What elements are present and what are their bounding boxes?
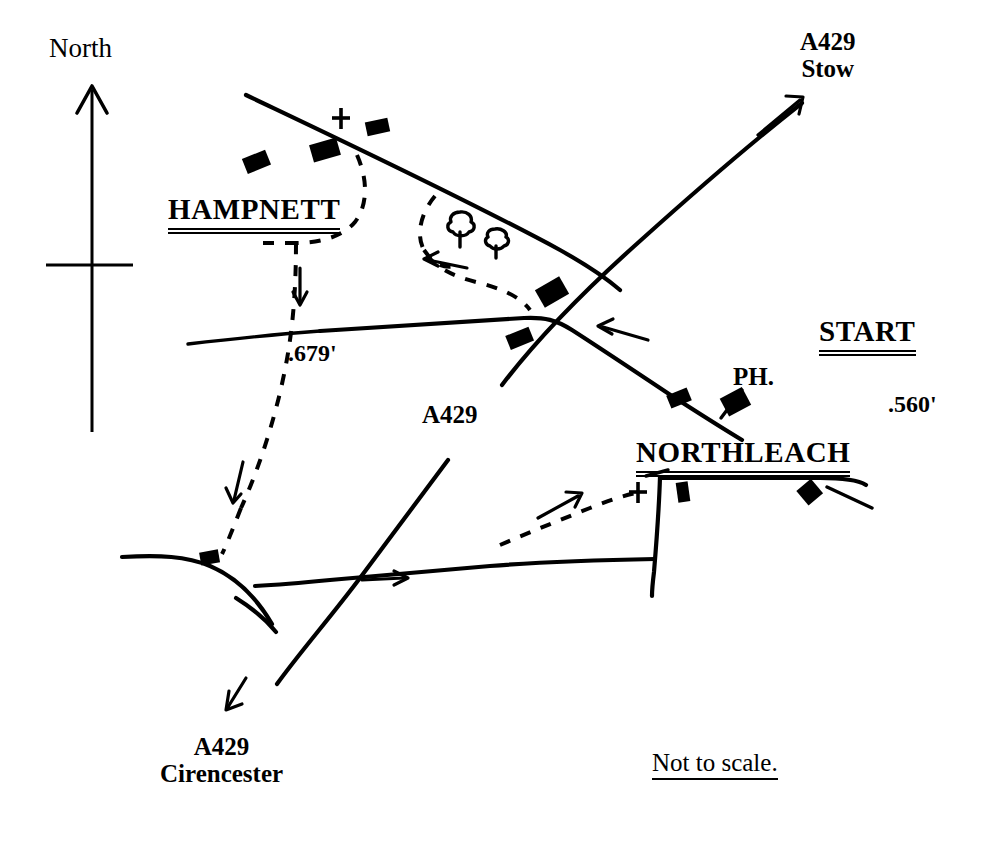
road-northleach-west-link	[255, 559, 655, 586]
road-label-a429-center: A429	[422, 401, 478, 428]
buildings-northleach-road	[666, 387, 751, 416]
church-cross-icon	[332, 108, 350, 129]
scale-note: Not to scale.	[652, 749, 778, 780]
building-block	[242, 150, 271, 174]
building-block	[505, 327, 534, 350]
road-northleach-east-spur	[827, 487, 872, 508]
buildings-junction	[505, 276, 569, 350]
road-lower-left-curve	[122, 556, 272, 624]
public-house-label: PH.	[733, 363, 774, 390]
footpath-arrow-hampnett-lower	[226, 462, 243, 503]
a429-stow-place: Stow	[800, 55, 856, 82]
tree-icon	[486, 229, 509, 258]
scale-note-text: Not to scale.	[652, 749, 778, 780]
building-block	[535, 276, 569, 307]
road-label-a429-cirencester: A429 Cirencester	[160, 733, 283, 787]
compass-rose	[46, 86, 133, 432]
footpath-hampnett-tail	[222, 508, 241, 554]
church-cross-icon	[629, 482, 647, 503]
compass-label-north: North	[49, 34, 112, 63]
spot-height-northleach: .560'	[888, 392, 937, 418]
footpath-hampnett-south	[241, 243, 296, 508]
a429-stow-number: A429	[800, 28, 856, 55]
building-block	[796, 479, 823, 506]
route-map: North HAMPNETT NORTHLEACH START PH. A429…	[0, 0, 988, 843]
place-label-northleach: NORTHLEACH	[636, 437, 850, 473]
northleach-text: NORTHLEACH	[636, 437, 850, 473]
tree-icon	[448, 212, 474, 247]
spot-height-hampnett: .679'	[288, 341, 337, 367]
road-northleach-south	[652, 477, 660, 596]
direction-arrow-stow	[758, 96, 803, 135]
building-block	[676, 481, 691, 502]
building-block	[199, 549, 220, 565]
buildings-northleach-village	[676, 479, 823, 506]
place-label-hampnett: HAMPNETT	[168, 194, 340, 230]
building-block	[309, 137, 341, 162]
footpath-arrow-northleach	[538, 492, 582, 518]
road-northleach-high-street	[660, 478, 866, 485]
a429-cirencester-place: Cirencester	[160, 760, 283, 787]
map-drawing	[0, 0, 988, 843]
building-block	[365, 118, 390, 136]
road-label-a429-stow: A429 Stow	[800, 28, 856, 82]
hampnett-text: HAMPNETT	[168, 194, 340, 230]
start-text: START	[819, 316, 916, 352]
a429-cirencester-number: A429	[160, 733, 283, 760]
direction-arrow-west	[598, 319, 648, 340]
direction-arrow-cirencester	[226, 678, 246, 710]
start-marker: START	[819, 316, 916, 352]
